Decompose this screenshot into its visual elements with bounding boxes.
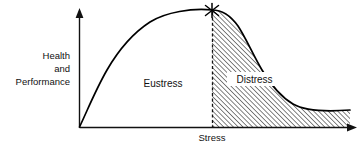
y-axis-label-line-2: and <box>54 63 70 74</box>
y-axis-label: Health and Performance <box>16 50 70 87</box>
y-axis-label-line-3: Performance <box>16 76 70 87</box>
distress-label-group: Distress <box>227 72 282 86</box>
x-axis-arrow-icon <box>347 124 357 132</box>
y-axis-arrow-icon <box>76 8 84 18</box>
stress-curve-figure: Health and Performance Stress Eustress D… <box>0 0 364 147</box>
y-axis-label-line-1: Health <box>43 50 70 61</box>
distress-label: Distress <box>236 74 272 85</box>
x-axis-label: Stress <box>199 132 226 143</box>
y-axis <box>76 8 84 128</box>
figure-canvas: Health and Performance Stress Eustress D… <box>0 0 364 147</box>
eustress-label: Eustress <box>144 78 183 89</box>
